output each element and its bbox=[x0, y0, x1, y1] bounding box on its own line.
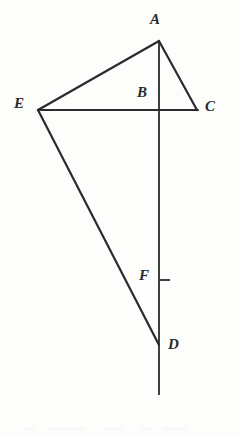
segment-a-c bbox=[159, 41, 197, 110]
segment-e-d bbox=[38, 110, 159, 345]
scan-artifact-strip bbox=[0, 418, 240, 437]
vertex-label-a: A bbox=[150, 12, 160, 27]
vertex-label-e: E bbox=[14, 96, 24, 111]
figure-canvas bbox=[0, 0, 240, 437]
geometry-figure: A E B C F D bbox=[0, 0, 240, 437]
vertex-label-f: F bbox=[139, 268, 149, 283]
vertex-label-d: D bbox=[168, 337, 179, 352]
vertex-label-b: B bbox=[137, 85, 147, 100]
vertex-label-c: C bbox=[205, 99, 215, 114]
segments-group bbox=[38, 41, 198, 345]
